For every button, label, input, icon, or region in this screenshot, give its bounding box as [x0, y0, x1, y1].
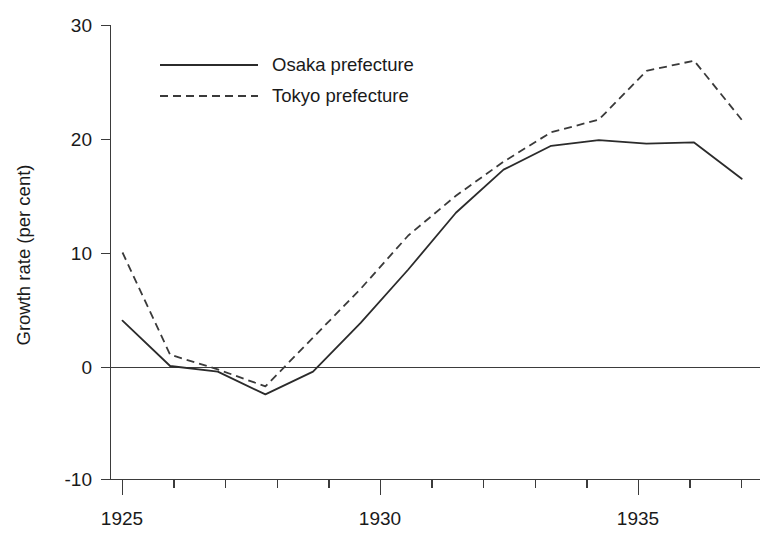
y-axis-title: Growth rate (per cent): [13, 165, 34, 346]
y-tick-label-30: 30: [71, 15, 92, 36]
legend-label-osaka: Osaka prefecture: [272, 54, 414, 75]
y-tick-label-10: 10: [71, 243, 92, 264]
growth-rate-line-chart: Growth rate (per cent) 30 20 10 0 -10: [0, 0, 778, 560]
x-tick-label-1935: 1935: [617, 508, 659, 529]
y-tick-label-20: 20: [71, 129, 92, 150]
x-tick-label-1930: 1930: [359, 508, 401, 529]
legend: Osaka prefecture Tokyo prefecture: [160, 54, 414, 106]
legend-label-tokyo: Tokyo prefecture: [272, 85, 409, 106]
y-tick-label-minus-10: -10: [65, 469, 92, 490]
series-line-osaka-prefecture: [123, 140, 742, 394]
y-tick-label-0: 0: [81, 357, 92, 378]
x-tick-label-1925: 1925: [101, 508, 143, 529]
chart-container: Growth rate (per cent) 30 20 10 0 -10: [0, 0, 778, 560]
series-line-tokyo-prefecture: [123, 61, 742, 387]
